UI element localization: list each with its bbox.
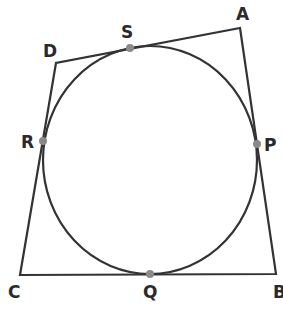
tangent-point-r <box>39 137 47 145</box>
label-d: D <box>43 41 57 61</box>
tangent-point-q <box>146 270 154 278</box>
inscribed-circle <box>43 46 257 274</box>
label-s: S <box>121 22 133 42</box>
label-b: B <box>273 282 283 302</box>
label-c: C <box>8 282 20 302</box>
diagram-canvas: A D S R P C Q B <box>0 0 283 313</box>
tangent-point-p <box>253 140 261 148</box>
label-p: P <box>264 135 276 155</box>
label-r: R <box>21 132 34 152</box>
quadrilateral-abcd <box>20 28 276 275</box>
label-q: Q <box>143 282 157 302</box>
label-a: A <box>236 4 250 24</box>
tangent-point-s <box>126 44 134 52</box>
